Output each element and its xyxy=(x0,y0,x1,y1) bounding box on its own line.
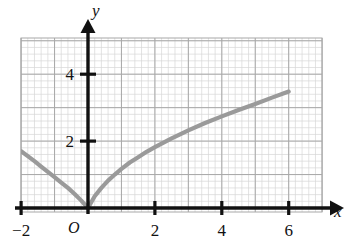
origin-label: O xyxy=(68,219,80,236)
y-axis-label: y xyxy=(90,1,100,20)
x-axis-label: x xyxy=(333,202,342,221)
graph-figure: −224624 x y O xyxy=(0,0,346,250)
x-tick-label-2: 2 xyxy=(151,221,160,240)
x-tick-label-6: 6 xyxy=(284,221,293,240)
x-tick-label--2: −2 xyxy=(12,221,30,240)
x-tick-label-4: 4 xyxy=(218,221,227,240)
y-tick-label-4: 4 xyxy=(66,65,75,84)
y-tick-label-2: 2 xyxy=(66,132,75,151)
coordinate-plane-svg: −224624 x y O xyxy=(0,0,346,250)
